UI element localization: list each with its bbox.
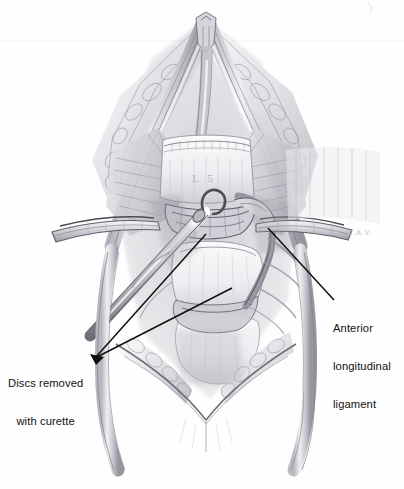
medical-illustration-figure: L 5 [0,0,404,489]
label-ligament-line3: ligament [333,398,391,411]
label-discs-removed: Discs removed with curette [8,352,83,453]
label-discs-line1: Discs removed [8,377,83,390]
label-discs-line2: with curette [8,415,83,428]
retractor-body-right [286,147,380,224]
label-anterior-longitudinal-ligament: Anterior longitudinal ligament [333,297,391,436]
label-ligament-line2: longitudinal [333,360,391,373]
artist-signature: C.A.V. [347,229,373,236]
vertebral-body-label: L 5 [192,172,216,184]
label-ligament-line1: Anterior [333,322,391,335]
